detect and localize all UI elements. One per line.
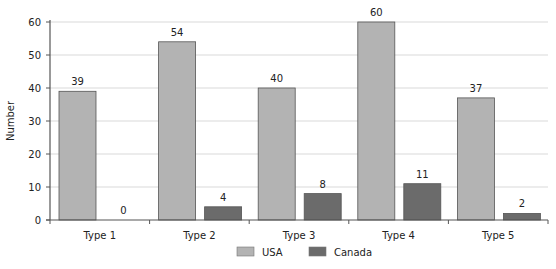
bar-canada-3 [304,194,341,220]
y-tick-label: 10 [28,182,41,193]
y-tick-label: 0 [35,215,41,226]
legend-swatch [309,247,326,256]
legend-swatch [237,247,254,256]
legend-label: USA [262,247,283,258]
bar-usa-5 [457,98,494,220]
y-tick-label: 30 [28,116,41,127]
x-tick-label: Type 3 [282,230,316,241]
bar-canada-2 [205,207,242,220]
x-tick-label: Type 5 [481,230,515,241]
y-tick-label: 40 [28,83,41,94]
y-axis-ticks: 0102030405060 [28,17,50,226]
legend-item-canada: Canada [309,247,372,258]
x-axis-ticks: Type 1Type 2Type 3Type 4Type 5 [83,220,548,241]
bar-canada-4 [404,184,441,220]
legend-item-usa: USA [237,247,283,258]
value-label: 54 [171,27,184,38]
bar-usa-1 [59,91,96,220]
x-tick-label: Type 1 [83,230,117,241]
value-label: 8 [320,179,326,190]
value-label: 37 [470,83,483,94]
bar-usa-4 [358,22,395,220]
value-label: 2 [519,198,525,209]
bar-canada-5 [503,213,540,220]
y-tick-label: 60 [28,17,41,28]
value-label: 11 [416,169,429,180]
bar-chart: 3905444086011372 0102030405060 Type 1Typ… [0,0,556,269]
value-label: 4 [220,192,226,203]
value-label: 60 [370,7,383,18]
value-label: 39 [71,76,84,87]
bar-usa-2 [159,42,196,220]
legend: USACanada [237,247,372,258]
x-tick-label: Type 4 [381,230,415,241]
value-label: 40 [270,73,283,84]
y-tick-label: 20 [28,149,41,160]
bars: 3905444086011372 [59,7,540,220]
value-label: 0 [120,205,126,216]
legend-label: Canada [334,247,372,258]
y-tick-label: 50 [28,50,41,61]
bar-usa-3 [258,88,295,220]
x-tick-label: Type 2 [182,230,216,241]
y-axis-title: Number [5,100,16,141]
